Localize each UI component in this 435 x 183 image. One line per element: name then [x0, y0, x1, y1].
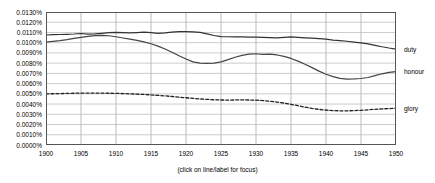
y-tick-label: 0.0120%	[0, 19, 42, 26]
ngram-chart: 0.0000%0.0010%0.0020%0.0030%0.0040%0.005…	[0, 0, 435, 183]
x-tick-label: 1945	[346, 150, 376, 157]
y-tick-label: 0.0090%	[0, 49, 42, 56]
x-tick-label: 1915	[136, 150, 166, 157]
y-tick-label: 0.0030%	[0, 111, 42, 118]
y-tick-label: 0.0040%	[0, 101, 42, 108]
y-tick-label: 0.0080%	[0, 60, 42, 67]
series-label-duty[interactable]: duty	[404, 46, 416, 53]
x-tick-label: 1935	[276, 150, 306, 157]
x-tick-label: 1910	[101, 150, 131, 157]
y-tick-label: 0.0020%	[0, 121, 42, 128]
x-tick-label: 1900	[31, 150, 61, 157]
x-tick-label: 1920	[171, 150, 201, 157]
x-tick-label: 1905	[66, 150, 96, 157]
y-tick-label: 0.0100%	[0, 39, 42, 46]
series-label-glory[interactable]: glory	[404, 105, 418, 112]
x-tick-label: 1950	[381, 150, 411, 157]
y-tick-label: 0.0110%	[0, 29, 42, 36]
y-tick-label: 0.0130%	[0, 9, 42, 16]
y-tick-label: 0.0060%	[0, 80, 42, 87]
x-tick-label: 1925	[206, 150, 236, 157]
x-tick-label: 1930	[241, 150, 271, 157]
chart-caption: (click on line/label for focus)	[0, 166, 435, 173]
y-tick-label: 0.0050%	[0, 90, 42, 97]
y-tick-label: 0.0010%	[0, 131, 42, 138]
plot-area[interactable]	[46, 12, 396, 145]
y-tick-label: 0.0070%	[0, 70, 42, 77]
y-tick-label: 0.0000%	[0, 142, 42, 149]
x-tick-label: 1940	[311, 150, 341, 157]
plot-svg	[46, 12, 396, 145]
series-label-honour[interactable]: honour	[404, 68, 424, 75]
